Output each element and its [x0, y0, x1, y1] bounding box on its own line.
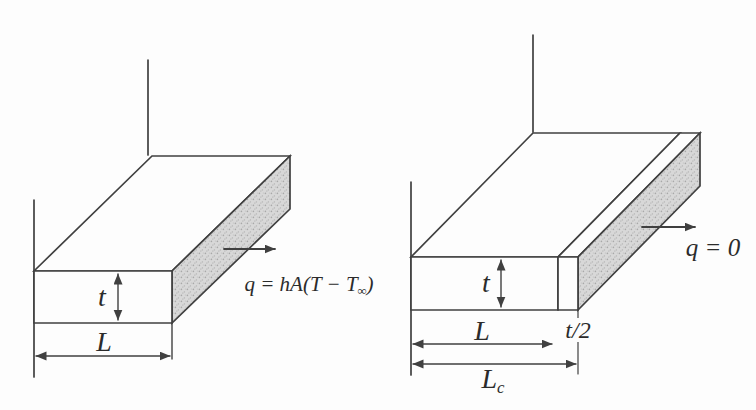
corrected-length-subscript: c [497, 378, 504, 397]
left-length-label: L [96, 328, 112, 356]
right-corrected-length-label: Lc [481, 365, 504, 397]
fin-diagrams-linework [0, 0, 756, 410]
right-length-label: L [474, 317, 490, 345]
right-thickness-label: t [482, 269, 490, 297]
heat-equation-infinity-subscript: ∞ [358, 284, 367, 298]
left-fin-diagram [34, 60, 290, 377]
right-fin-front-slice-face [558, 257, 578, 310]
left-thickness-label: t [98, 283, 106, 311]
right-heat-zero-label: q = 0 [686, 235, 740, 260]
right-half-thickness-label: t/2 [562, 318, 593, 342]
right-fin-diagram [411, 35, 700, 375]
heat-equation-main: q = hA(T − T [244, 272, 357, 296]
left-heat-equation-label: q = hA(T − T∞) [244, 274, 373, 297]
heat-equation-close-paren: ) [367, 272, 374, 296]
fin-corrected-length-figure: t L q = hA(T − T∞) t L t/2 Lc q = 0 [0, 0, 756, 410]
corrected-length-main: L [481, 363, 497, 394]
